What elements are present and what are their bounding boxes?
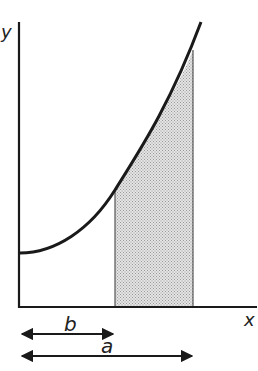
a-label: a xyxy=(101,336,113,356)
shaded-area xyxy=(115,50,193,307)
b-label: b xyxy=(64,314,77,334)
x-axis-label: x xyxy=(244,311,255,329)
area-under-curve-diagram: y x b a xyxy=(0,0,258,371)
diagram-canvas xyxy=(0,0,258,371)
y-axis-label: y xyxy=(1,23,12,41)
